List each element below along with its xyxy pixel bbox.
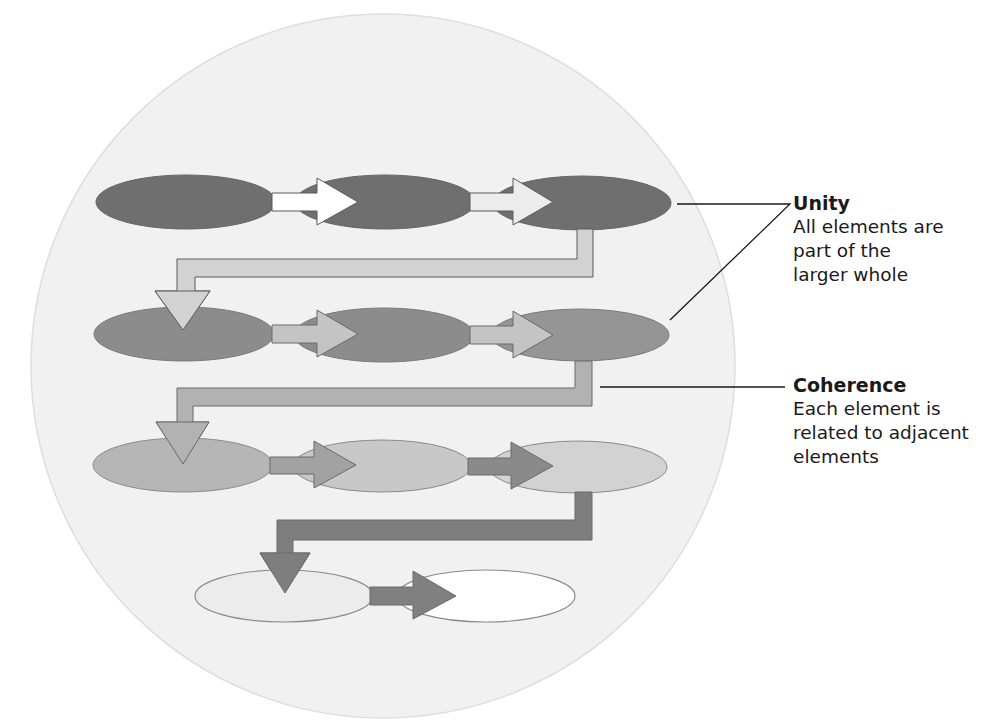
unity-label-title: Unity bbox=[793, 191, 1003, 215]
row-1 bbox=[96, 175, 671, 230]
coherence-label: Coherence Each element is related to adj… bbox=[793, 373, 1003, 469]
coherence-label-line-1: Each element is bbox=[793, 397, 1003, 421]
background-circle bbox=[31, 14, 735, 718]
unity-label: Unity All elements are part of the large… bbox=[793, 191, 1003, 287]
coherence-label-line-2: related to adjacent bbox=[793, 421, 1003, 445]
unity-label-line-3: larger whole bbox=[793, 263, 1003, 287]
coherence-label-title: Coherence bbox=[793, 373, 1003, 397]
coherence-label-line-3: elements bbox=[793, 445, 1003, 469]
row1-element-1 bbox=[96, 175, 276, 229]
unity-label-line-2: part of the bbox=[793, 239, 1003, 263]
unity-label-line-1: All elements are bbox=[793, 215, 1003, 239]
unity-coherence-diagram bbox=[0, 0, 1007, 727]
